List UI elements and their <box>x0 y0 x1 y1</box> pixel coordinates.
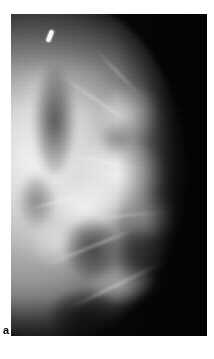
fatty-lucent-region <box>66 220 117 278</box>
fatty-lucent-region <box>19 175 54 227</box>
air-background-top <box>11 14 207 111</box>
breast-mammogram-image <box>11 14 207 336</box>
figure-panel: a <box>0 0 214 359</box>
figure-panel-label: a <box>3 324 9 336</box>
